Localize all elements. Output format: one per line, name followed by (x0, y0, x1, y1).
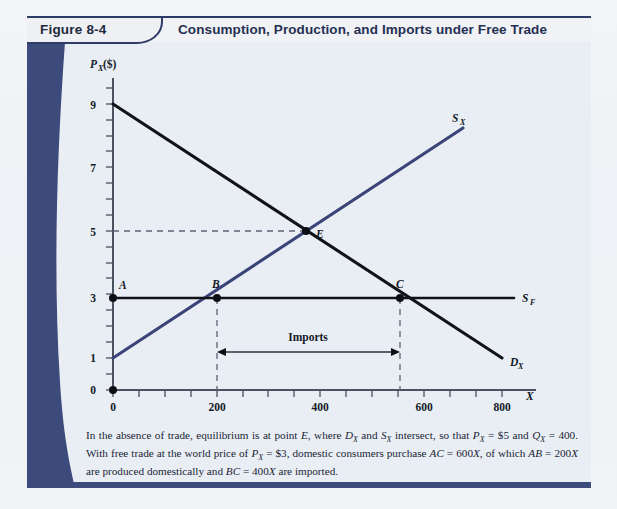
figure-title: Consumption, Production, and Imports und… (178, 22, 547, 37)
figure-number-label: Figure 8-4 (40, 22, 107, 37)
plot-field (64, 42, 591, 420)
figure-bottom-bar (27, 482, 591, 488)
figure-page: Figure 8-4 Consumption, Production, and … (0, 0, 617, 509)
figure-caption: In the absence of trade, equilibrium is … (86, 428, 578, 478)
decorative-side-band (27, 42, 87, 488)
